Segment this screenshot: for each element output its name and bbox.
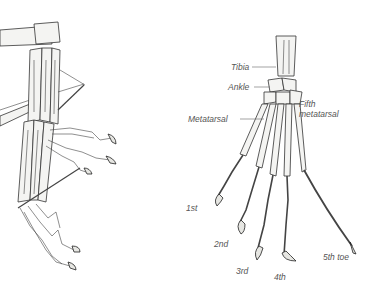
label-toe-2: 2nd: [214, 240, 228, 249]
label-fifth-metatarsal-line1: Fifth: [299, 100, 316, 109]
label-metatarsal: Metatarsal: [188, 115, 228, 124]
label-toe-1: 1st: [186, 204, 197, 213]
label-toe-3: 3rd: [236, 267, 248, 276]
label-tibia: Tibia: [231, 63, 249, 72]
left-foot-skeleton: [0, 0, 370, 295]
anatomy-figure: Tibia Ankle Metatarsal Fifth metatarsal …: [0, 0, 370, 295]
label-fifth-metatarsal-line2: metatarsal: [299, 110, 339, 119]
label-toe-5: 5th toe: [323, 253, 349, 262]
label-toe-4: 4th: [274, 273, 286, 282]
label-ankle: Ankle: [228, 83, 249, 92]
